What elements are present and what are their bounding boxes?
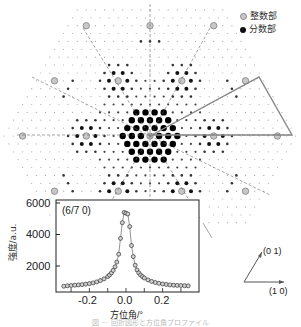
- legend-item-fractional: 分数部: [240, 23, 277, 36]
- data-point: [113, 265, 117, 269]
- gray-ring-icon: [240, 13, 247, 20]
- data-point: [115, 260, 119, 264]
- legend: 整数部 分数部: [240, 10, 277, 36]
- data-point: [117, 252, 121, 256]
- data-point: [131, 255, 135, 259]
- data-point: [133, 263, 137, 267]
- data-point: [120, 221, 124, 225]
- data-point: [126, 212, 130, 216]
- ytick-4000: 4000: [26, 228, 50, 240]
- data-point: [186, 284, 190, 288]
- legend-item-integer: 整数部: [240, 10, 277, 23]
- vector-label-01: (0 1): [263, 246, 282, 256]
- inset-annotation: (6/7 0): [62, 205, 91, 216]
- data-point: [102, 277, 106, 281]
- figure-caption: 図 ··· 回折図形と方位角プロファイル: [0, 317, 301, 327]
- data-point: [128, 225, 132, 229]
- xtick-00: 0.0: [117, 294, 132, 306]
- data-point: [142, 276, 146, 280]
- data-point: [119, 236, 123, 240]
- xtick-neg02: -0.2: [78, 294, 97, 306]
- y-axis-label: 強度/a.u.: [6, 224, 19, 262]
- data-point: [84, 282, 88, 286]
- lattice-vector-arrows: [244, 252, 284, 284]
- ytick-6000: 6000: [26, 197, 50, 209]
- data-point: [157, 281, 161, 285]
- data-point: [130, 244, 134, 248]
- black-dot-icon: [240, 27, 246, 33]
- ytick-2000: 2000: [26, 260, 50, 272]
- data-point: [87, 282, 91, 286]
- vector-label-10: (1 0): [269, 286, 288, 296]
- xtick-02: 0.2: [154, 294, 169, 306]
